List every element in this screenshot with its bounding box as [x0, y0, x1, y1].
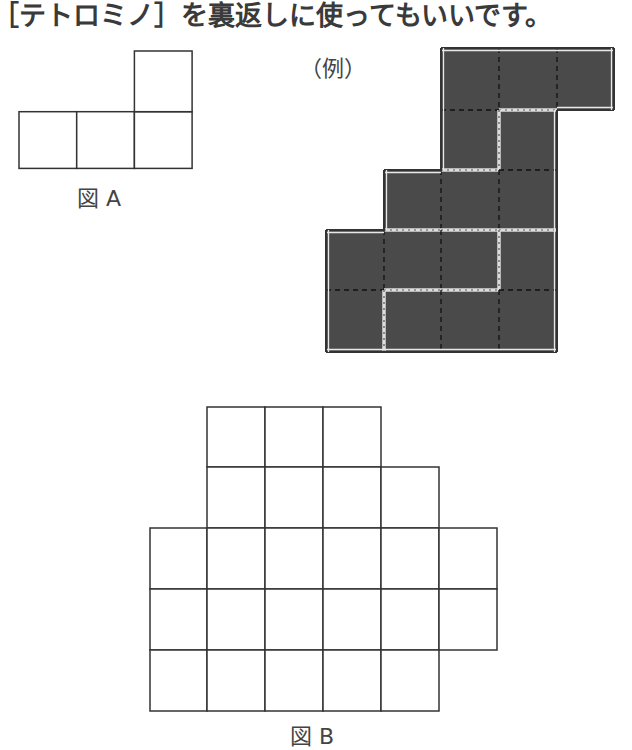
figure-b-label: 図 B — [290, 718, 334, 750]
figure-b-grid — [150, 407, 497, 711]
figure-a-label: 図 A — [77, 180, 121, 212]
example-label: （例） — [300, 50, 366, 82]
example-filled-shape — [326, 48, 614, 352]
figure-a-tetromino — [19, 51, 192, 168]
